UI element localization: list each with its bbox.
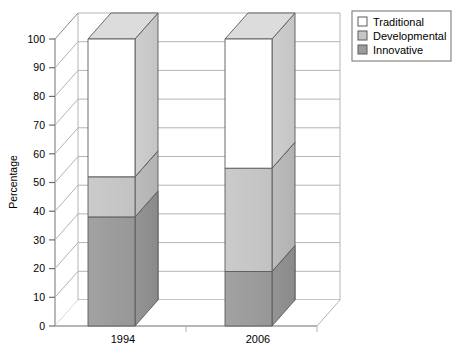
y-tick-label-80: 80 <box>33 90 45 102</box>
y-axis-title: Percentage <box>7 155 19 209</box>
y-axis: 100 90 80 70 60 50 40 30 20 10 0 Percent… <box>7 33 55 332</box>
legend-label-developmental: Developmental <box>373 30 446 42</box>
y-tick-label-50: 50 <box>33 176 45 188</box>
bar-segment-2006-traditional[interactable] <box>225 13 295 168</box>
y-tick-label-20: 20 <box>33 262 45 274</box>
legend-label-traditional: Traditional <box>373 16 424 28</box>
y-tick-label-60: 60 <box>33 148 45 160</box>
y-tick-label-30: 30 <box>33 234 45 246</box>
y-tick-label-10: 10 <box>33 291 45 303</box>
chart-canvas: 100 90 80 70 60 50 40 30 20 10 0 Percent… <box>0 0 455 353</box>
legend-label-innovative: Innovative <box>373 44 423 56</box>
y-tick-label-70: 70 <box>33 119 45 131</box>
x-tick-label-1994: 1994 <box>111 333 135 345</box>
x-tick-label-2006: 2006 <box>246 333 270 345</box>
y-tick-label-90: 90 <box>33 61 45 73</box>
chart-legend: Traditional Developmental Innovative <box>352 11 451 61</box>
bar-segment-1994-traditional[interactable] <box>88 13 158 177</box>
y-tick-label-0: 0 <box>39 320 45 332</box>
x-axis: 1994 2006 <box>111 333 270 345</box>
bar-group-2006[interactable] <box>225 13 295 326</box>
plot-left-wall <box>55 13 78 326</box>
bar-group-1994[interactable] <box>88 13 158 326</box>
y-tick-label-40: 40 <box>33 205 45 217</box>
y-tick-label-100: 100 <box>27 33 45 45</box>
stacked-3d-bar-chart: 100 90 80 70 60 50 40 30 20 10 0 Percent… <box>0 0 455 353</box>
